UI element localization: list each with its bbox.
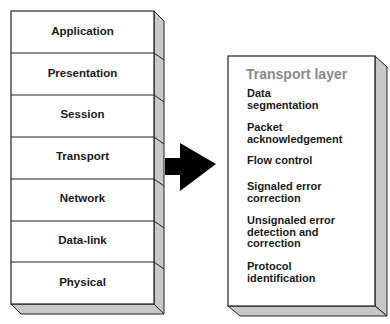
- function-item: Data segmentation: [247, 88, 367, 111]
- arrow-right-icon: [165, 143, 216, 191]
- function-line: correction: [247, 238, 367, 250]
- panel-title: Transport layer: [246, 66, 347, 82]
- stack-bottom-face: [11, 304, 164, 314]
- function-line: segmentation: [247, 100, 367, 112]
- layer-session: Session: [11, 108, 154, 120]
- function-line: identification: [247, 273, 367, 285]
- function-line: correction: [247, 193, 367, 205]
- layer-network: Network: [11, 192, 154, 204]
- layer-application: Application: [11, 25, 154, 37]
- layer-presentation: Presentation: [11, 67, 154, 79]
- function-item: Packet acknowledgement: [247, 122, 367, 145]
- panel-side-face: [375, 56, 387, 316]
- function-item: Protocol identification: [247, 261, 367, 284]
- function-item: Flow control: [247, 155, 367, 167]
- layer-transport: Transport: [11, 150, 154, 162]
- panel-bottom-face: [228, 306, 387, 316]
- function-line: Signaled error: [247, 181, 367, 193]
- function-line: Flow control: [247, 155, 367, 167]
- function-line: Unsignaled error: [247, 215, 367, 227]
- function-line: acknowledgement: [247, 134, 367, 146]
- function-item: Unsignaled error detection and correctio…: [247, 215, 367, 250]
- layer-data-link: Data-link: [11, 234, 154, 246]
- layer-physical: Physical: [11, 276, 154, 288]
- function-item: Signaled error correction: [247, 181, 367, 204]
- function-line: Packet: [247, 122, 367, 134]
- function-line: Protocol: [247, 261, 367, 273]
- function-line: Data: [247, 88, 367, 100]
